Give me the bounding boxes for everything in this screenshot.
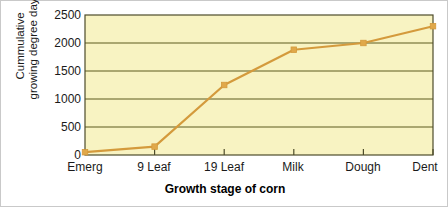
x-tick-label-emerg: Emerg xyxy=(67,160,102,174)
x-tick-label-19-leaf: 19 Leaf xyxy=(204,160,244,174)
x-tick-label-dent: Dent xyxy=(412,160,437,174)
chart-figure: Cummulative growing degree days 2500 200… xyxy=(0,0,448,207)
x-tick-label-9-leaf: 9 Leaf xyxy=(137,160,170,174)
x-axis-label: Growth stage of corn xyxy=(1,182,448,196)
x-axis-tick-labels: Emerg 9 Leaf 19 Leaf Milk Dough Dent xyxy=(1,1,448,207)
x-tick-label-milk: Milk xyxy=(282,160,303,174)
x-tick-label-dough: Dough xyxy=(345,160,380,174)
